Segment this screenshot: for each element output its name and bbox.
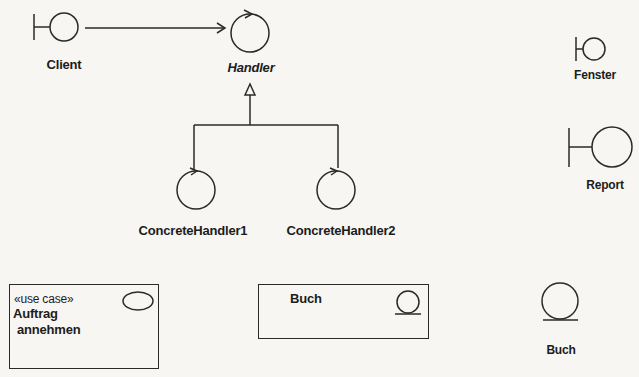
concrete-handler-1-label: ConcreteHandler1 [139,223,248,238]
client-label: Client [47,57,82,72]
fenster-boundary-icon[interactable] [576,37,605,61]
generalization-connector[interactable] [194,84,338,170]
concrete-handler-2-label: ConcreteHandler2 [287,223,396,238]
client-boundary-icon[interactable] [34,13,78,41]
use-case-box[interactable]: «use case» Auftrag annehmen [9,284,159,369]
client-to-handler-arrow[interactable] [85,23,225,33]
use-case-name-line1: Auftrag [13,306,58,321]
report-label: Report [586,178,623,192]
buch-entity-icon[interactable] [542,283,578,320]
fenster-label: Fenster [574,68,616,82]
report-boundary-icon[interactable] [569,127,632,167]
use-case-name-line2: annehmen [17,322,80,337]
buch-box-name: Buch [290,291,322,306]
handler-control-icon[interactable] [231,10,269,52]
concrete-handler-2-control-icon[interactable] [317,168,355,209]
buch-entity-label: Buch [546,343,575,357]
buch-entity-box[interactable]: Buch [258,284,429,339]
handler-label: Handler [227,60,274,75]
concrete-handler-1-control-icon[interactable] [177,168,215,209]
use-case-stereotype: «use case» [14,292,73,306]
